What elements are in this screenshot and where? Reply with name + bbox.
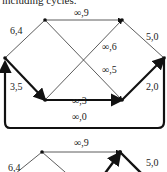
- edge-thick-in: [100, 153, 120, 172]
- edge-label-c: 5,0: [146, 157, 159, 168]
- edge-label-b: ∞,9: [74, 7, 89, 18]
- edge-h: [122, 58, 164, 100]
- edge-label-i: ∞,0: [72, 111, 87, 122]
- edge-label-e: ∞,5: [102, 64, 117, 75]
- edge-label-d: ∞,6: [102, 41, 117, 52]
- edge-label-h: 2,0: [146, 81, 159, 92]
- edge-x: [42, 152, 80, 172]
- graph-1: 6,4 ∞,9 5,0 ∞,6 ∞,5 3,5 ∞,3 2,0 ∞,0: [3, 7, 166, 128]
- edge-label-b: ∞,9: [74, 137, 89, 148]
- flow-network-diagram: 6,4 ∞,9 5,0 ∞,6 ∞,5 3,5 ∞,3 2,0 ∞,0 ∞,9 …: [0, 0, 167, 172]
- graph-2: ∞,9 6,4 5,0: [5, 137, 159, 172]
- edge-f: [5, 58, 45, 100]
- edge-label-g: ∞,3: [72, 95, 87, 106]
- edge-label-f: 3,5: [10, 81, 23, 92]
- edge-label-a: 6,4: [10, 25, 23, 36]
- edge-label-c: 5,0: [146, 31, 159, 42]
- edge-label-a: 6,4: [8, 162, 21, 172]
